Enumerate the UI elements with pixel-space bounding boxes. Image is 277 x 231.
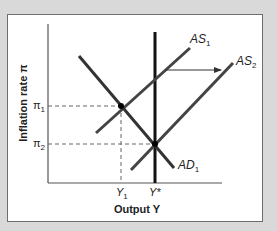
y1-tick-label: Y1 [116, 186, 128, 201]
ystar-tick-label: Y* [149, 186, 161, 198]
ad1-curve [79, 56, 174, 168]
pi1-tick-label: π1 [33, 99, 46, 114]
as1-label: AS1 [189, 32, 211, 48]
equilibrium-point-1 [118, 103, 124, 109]
ad-as-chart: AS1 AS2 AD1 π1 π2 Y1 Y* Output Y Inflati… [0, 0, 277, 231]
pi2-tick-label: π2 [33, 137, 46, 152]
as2-curve [131, 63, 233, 170]
as2-label: AS2 [235, 54, 257, 70]
equilibrium-point-2 [152, 141, 158, 147]
y-axis-title: Inflation rate π [17, 64, 29, 142]
x-axis-title: Output Y [114, 203, 161, 215]
ad1-label: AD1 [177, 158, 200, 174]
